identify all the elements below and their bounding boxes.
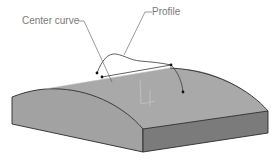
- center-curve-label: Center curve: [22, 16, 79, 26]
- baseline-endpoint: [101, 76, 104, 79]
- profile-endpoint: [96, 72, 99, 75]
- profile-leader: [124, 12, 152, 55]
- sweep-feature-diagram: Center curve Profile: [0, 0, 276, 162]
- center-curve-endpoint: [182, 91, 185, 94]
- profile-label: Profile: [152, 7, 180, 17]
- center-curve-leader: [78, 21, 112, 82]
- shared-endpoint: [170, 64, 173, 67]
